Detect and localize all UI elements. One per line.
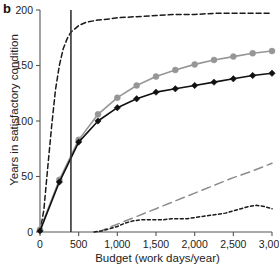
- chart-plot-area: 050100150200 05001,0001,5002,0002,5003,0…: [0, 0, 279, 270]
- figure-panel-b: b Years in satisfactory condition Budget…: [0, 0, 279, 270]
- y-axis: 050100150200: [15, 4, 40, 238]
- chart-series-group: [37, 13, 275, 234]
- series-marker-gray-marker-curve: [172, 67, 178, 73]
- series-marker-gray-marker-curve: [134, 82, 140, 88]
- x-tick-label: 3,000: [259, 238, 279, 250]
- x-tick-label: 500: [70, 238, 88, 250]
- y-tick-label: 150: [15, 59, 33, 71]
- y-tick-label: 100: [15, 115, 33, 127]
- series-marker-black-marker-curve: [191, 82, 197, 88]
- series-marker-black-marker-curve: [211, 79, 217, 85]
- series-marker-black-marker-curve: [133, 96, 139, 102]
- x-tick-label: 1,000: [104, 238, 130, 250]
- series-line-top-dashed-curve: [40, 13, 272, 232]
- series-line-gray-long-dashed-line: [98, 163, 272, 232]
- series-line-black-short-dashed-line: [94, 205, 272, 232]
- series-marker-gray-marker-curve: [211, 57, 217, 63]
- y-tick-label: 50: [21, 170, 33, 182]
- series-line-black-marker-curve: [40, 73, 272, 231]
- series-marker-gray-marker-curve: [95, 111, 101, 117]
- series-marker-gray-marker-curve: [192, 61, 198, 67]
- series-marker-gray-marker-curve: [269, 48, 275, 54]
- series-marker-gray-marker-curve: [230, 54, 236, 60]
- series-marker-gray-marker-curve: [250, 50, 256, 56]
- series-marker-gray-marker-curve: [114, 95, 120, 101]
- x-tick-label: 0: [37, 238, 43, 250]
- series-marker-black-marker-curve: [230, 76, 236, 82]
- series-marker-black-marker-curve: [269, 70, 275, 76]
- y-tick-label: 0: [27, 226, 33, 238]
- series-marker-black-marker-curve: [153, 89, 159, 95]
- x-axis: 05001,0001,5002,0002,5003,000: [37, 232, 279, 250]
- series-marker-black-marker-curve: [172, 86, 178, 92]
- y-tick-label: 200: [15, 4, 33, 16]
- x-tick-label: 2,000: [182, 238, 208, 250]
- series-marker-black-marker-curve: [249, 72, 255, 78]
- x-tick-label: 2,500: [220, 238, 246, 250]
- series-marker-gray-marker-curve: [153, 74, 159, 80]
- x-tick-label: 1,500: [143, 238, 169, 250]
